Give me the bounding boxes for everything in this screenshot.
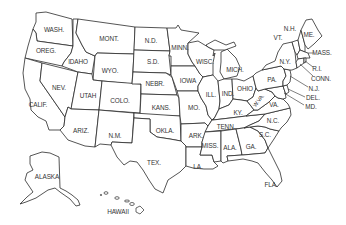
state-label-ma: MASS.: [312, 50, 331, 56]
state-label-ga: GA.: [246, 144, 257, 150]
state-label-pa: PA.: [267, 77, 277, 83]
island-big-island: [136, 206, 144, 214]
state-label-nm: N.M.: [108, 133, 121, 139]
state-label-va: VA.: [269, 102, 279, 108]
state-label-tn: TENN.: [217, 124, 236, 130]
state-label-ca: CALIF.: [29, 102, 48, 108]
state-label-nj: N.J.: [309, 86, 320, 92]
state-label-il: ILL.: [206, 92, 216, 98]
state-michigan[interactable]: [220, 49, 240, 79]
state-label-wa: WASH.: [44, 27, 64, 33]
state-label-ar: ARK.: [189, 133, 204, 139]
state-label-wy: WYO.: [102, 68, 119, 74]
state-label-az: ARIZ.: [73, 128, 89, 134]
us-map: [0, 0, 346, 225]
state-label-la: LA.: [193, 164, 202, 170]
state-label-ia: IOWA: [180, 78, 196, 84]
island-niihau: [100, 194, 101, 195]
state-label-mi: MICH.: [226, 67, 244, 73]
state-label-ri: R.I.: [312, 66, 322, 72]
state-label-ak: ALASKA: [35, 174, 59, 180]
state-label-me: ME.: [303, 32, 314, 38]
state-new-york[interactable]: [262, 42, 297, 70]
state-label-de: DEL.: [306, 95, 320, 101]
state-label-sd: S.D.: [147, 59, 159, 65]
island-oahu: [115, 197, 119, 200]
state-label-fl: FLA.: [264, 182, 277, 188]
state-label-ks: KANS.: [152, 105, 171, 111]
state-label-ct: CONN.: [311, 76, 331, 82]
state-label-mt: MONT.: [99, 36, 118, 42]
state-label-sc: S.C.: [259, 132, 271, 138]
state-label-wi: WISC.: [196, 59, 214, 65]
state-new-mexico[interactable]: [95, 110, 134, 147]
state-label-nc: N.C.: [267, 118, 279, 124]
state-label-nh: N.H.: [284, 26, 296, 32]
state-label-ny: N.Y.: [279, 59, 290, 65]
state-label-tx: TEX.: [147, 160, 161, 166]
state-label-ut: UTAH: [80, 93, 97, 99]
state-label-al: ALA.: [223, 145, 236, 151]
island-molokai: [124, 200, 129, 202]
state-label-ok: OKLA.: [156, 128, 174, 134]
state-label-co: COLO.: [110, 98, 129, 104]
state-label-or: OREG.: [36, 48, 56, 54]
state-label-in: IND.: [222, 91, 234, 97]
state-label-id: IDAHO: [68, 59, 88, 65]
state-label-ms: MISS.: [202, 143, 219, 149]
state-label-vt: VT.: [274, 35, 283, 41]
state-label-hi: HAWAII: [107, 209, 129, 215]
state-massachusetts[interactable]: [297, 50, 310, 59]
state-label-md: MD.: [305, 104, 316, 110]
island-maui: [130, 203, 135, 206]
state-rhode-island[interactable]: [304, 58, 306, 63]
state-label-mo: MO.: [188, 105, 200, 111]
state-michigan-upper[interactable]: [206, 40, 236, 50]
state-label-oh: OHIO: [237, 86, 253, 92]
state-label-nd: N.D.: [145, 38, 157, 44]
state-label-nv: NEV.: [52, 85, 66, 91]
state-label-mn: MINN.: [171, 45, 189, 51]
island-kauai: [104, 192, 108, 195]
state-label-ky: KY.: [233, 110, 242, 116]
state-label-ne: NEBR.: [145, 81, 164, 87]
